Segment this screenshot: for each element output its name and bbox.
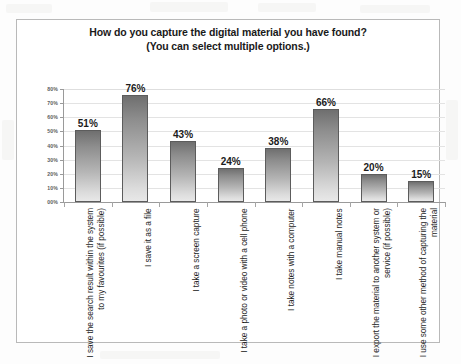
y-tick-mark-50 [60, 131, 64, 132]
x-tick-mark-8 [445, 202, 446, 207]
y-tick-label-0: 00% [47, 199, 58, 205]
gridline-60 [64, 117, 445, 118]
bar[interactable]: 38% [265, 148, 291, 202]
x-category-label-text: I take manual notes [333, 208, 344, 358]
bar-value-label: 24% [221, 156, 241, 167]
x-category-label-text: I export the material to another system … [371, 208, 392, 358]
x-category-label: I export the material to another system … [350, 208, 398, 358]
bar-value-label: 20% [364, 162, 384, 173]
chart-title: How do you capture the digital material … [17, 25, 439, 53]
bar[interactable]: 51% [75, 130, 101, 202]
x-category-label-text: I take a screen capture [191, 208, 202, 358]
x-category-label-text: I save the search result within the syst… [85, 208, 106, 358]
x-category-label-text: I take a photo or video with a cell phon… [238, 208, 249, 358]
x-category-label: I take manual notes [302, 208, 350, 358]
x-category-label-text: I use some other method of capturing the… [418, 208, 439, 358]
x-category-label-text: I save it as a file [143, 208, 154, 358]
gridline-70 [64, 103, 445, 104]
y-tick-mark-70 [60, 103, 64, 104]
y-tick-mark-40 [60, 146, 64, 147]
bar[interactable]: 24% [218, 168, 244, 202]
x-axis-category-labels: I save the search result within the syst… [64, 208, 445, 358]
y-tick-label-40: 40% [47, 143, 58, 149]
bar-value-label: 38% [268, 136, 288, 147]
y-tick-label-30: 30% [47, 157, 58, 163]
bar[interactable]: 20% [361, 174, 387, 202]
x-category-label: I use some other method of capturing the… [397, 208, 445, 358]
x-tick-mark-2 [159, 202, 160, 207]
x-tick-mark-3 [207, 202, 208, 207]
y-tick-mark-30 [60, 160, 64, 161]
gridline-50 [64, 131, 445, 132]
gridline-20 [64, 174, 445, 175]
x-category-label: I save the search result within the syst… [64, 208, 112, 358]
bar[interactable]: 76% [122, 95, 148, 202]
bar[interactable]: 43% [170, 141, 196, 202]
gridline-80 [64, 89, 445, 90]
y-tick-label-80: 80% [47, 86, 58, 92]
x-tick-mark-4 [255, 202, 256, 207]
x-tick-mark-7 [397, 202, 398, 207]
x-category-label: I take a photo or video with a cell phon… [207, 208, 255, 358]
chart-container: How do you capture the digital material … [16, 19, 440, 343]
bar[interactable]: 15% [408, 181, 434, 202]
x-tick-mark-1 [112, 202, 113, 207]
gridline-30 [64, 160, 445, 161]
x-tick-mark-0 [64, 202, 65, 207]
y-tick-mark-80 [60, 89, 64, 90]
y-tick-label-70: 70% [47, 100, 58, 106]
y-tick-label-20: 20% [47, 171, 58, 177]
chart-title-line-1: How do you capture the digital material … [17, 25, 439, 39]
plot-area: 80%70%60%50%40%30%20%10%00% 51%76%43%24%… [64, 89, 445, 202]
bar-value-label: 15% [411, 169, 431, 180]
y-tick-label-60: 60% [47, 114, 58, 120]
bar-value-label: 51% [78, 118, 98, 129]
x-tick-mark-6 [350, 202, 351, 207]
y-tick-label-50: 50% [47, 128, 58, 134]
x-category-label-text: I take notes with a computer [286, 208, 297, 358]
y-tick-mark-20 [60, 174, 64, 175]
bar[interactable]: 66% [313, 109, 339, 202]
gridline-10 [64, 188, 445, 189]
chart-subtitle: (You can select multiple options.) [17, 39, 439, 53]
y-tick-label-10: 10% [47, 185, 58, 191]
bar-value-label: 66% [316, 97, 336, 108]
bar-value-label: 43% [173, 129, 193, 140]
y-tick-mark-60 [60, 117, 64, 118]
gridline-40 [64, 146, 445, 147]
x-category-label: I take a screen capture [159, 208, 207, 358]
x-category-label: I save it as a file [112, 208, 160, 358]
x-tick-mark-5 [302, 202, 303, 207]
y-tick-mark-10 [60, 188, 64, 189]
x-category-label: I take notes with a computer [255, 208, 303, 358]
bar-value-label: 76% [125, 83, 145, 94]
